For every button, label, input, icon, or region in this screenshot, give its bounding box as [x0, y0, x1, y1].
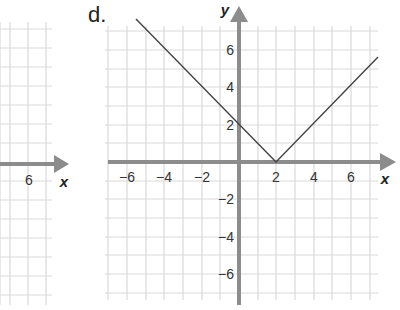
y-axis-arrow-icon: [230, 6, 248, 22]
y-tick-neg6: −6: [218, 266, 234, 282]
graph-canvas: 6 x d.: [0, 0, 400, 310]
x-tick-2: 2: [272, 169, 280, 185]
y-tick-6: 6: [226, 42, 234, 58]
x-axis-label: x: [380, 170, 390, 187]
x-tick-4: 4: [310, 169, 318, 185]
absolute-value-graph: [136, 19, 378, 162]
x-tick-6: 6: [347, 169, 355, 185]
left-partial-x-label: x: [59, 173, 69, 190]
y-tick-2: 2: [226, 117, 234, 133]
y-tick-neg2: −2: [218, 191, 234, 207]
left-partial-tick-6: 6: [25, 172, 33, 188]
x-tick-neg2: −2: [194, 169, 210, 185]
x-tick-neg6: −6: [119, 169, 135, 185]
y-axis-label: y: [220, 1, 230, 18]
y-tick-neg4: −4: [218, 229, 234, 245]
x-axis-arrow-icon: [380, 153, 396, 171]
part-label: d.: [88, 2, 106, 27]
x-tick-neg4: −4: [156, 169, 172, 185]
y-tick-4: 4: [226, 79, 234, 95]
